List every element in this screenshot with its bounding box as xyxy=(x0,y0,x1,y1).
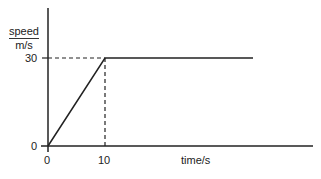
y-label-denominator: m/s xyxy=(9,39,39,51)
y-label-numerator: speed xyxy=(9,25,39,39)
speed-time-graph xyxy=(0,0,321,179)
y-tick-label-30: 30 xyxy=(25,52,37,64)
x-tick-label-10: 10 xyxy=(98,154,110,166)
x-axis-label: time/s xyxy=(181,154,210,166)
speed-line xyxy=(48,58,253,146)
y-axis-label: speed m/s xyxy=(9,25,39,51)
x-tick-label-0: 0 xyxy=(44,154,50,166)
y-tick-label-0: 0 xyxy=(31,140,37,152)
